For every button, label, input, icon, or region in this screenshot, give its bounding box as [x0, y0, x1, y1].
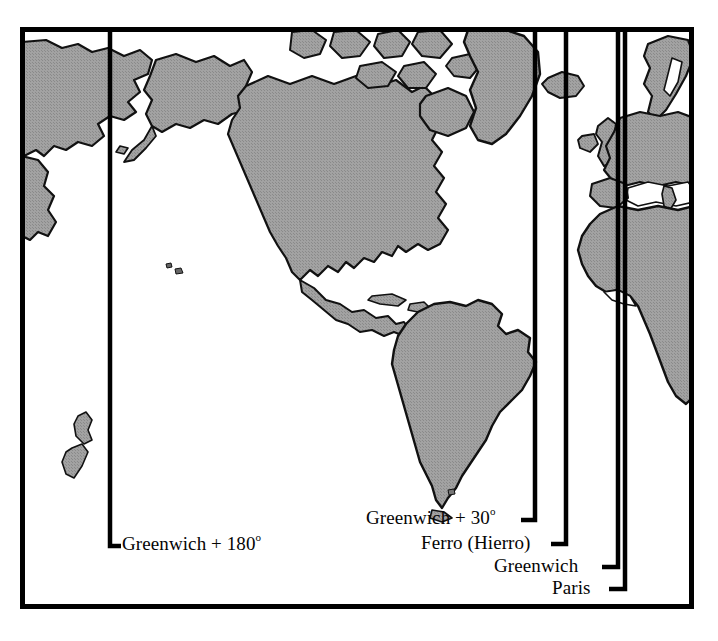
meridian-world-map-figure: Greenwich + 180o Greenwich + 30o Ferro (…	[0, 0, 718, 641]
meridian-label-text: Greenwich	[494, 555, 578, 576]
land-baffin-island	[420, 88, 474, 136]
meridian-label-text: Greenwich + 180	[122, 533, 256, 554]
world-map-svg	[0, 0, 718, 641]
meridian-label-greenwich-plus-30: Greenwich + 30o	[366, 508, 495, 527]
meridian-label-text: Greenwich + 30	[366, 507, 490, 528]
meridian-label-greenwich-plus-180: Greenwich + 180o	[122, 534, 261, 553]
degree-symbol-icon: o	[256, 531, 262, 543]
meridian-label-greenwich: Greenwich	[494, 556, 578, 575]
land-hawaii-2	[175, 268, 183, 274]
land-falkland-islands	[448, 489, 455, 495]
meridian-label-ferro-hierro: Ferro (Hierro)	[421, 533, 531, 552]
meridian-label-text: Ferro (Hierro)	[421, 532, 531, 553]
meridian-label-paris: Paris	[552, 578, 591, 597]
water-mediterranean	[626, 182, 694, 206]
land-hawaii	[166, 263, 172, 268]
degree-symbol-icon: o	[490, 505, 496, 517]
meridian-label-text: Paris	[552, 577, 591, 598]
